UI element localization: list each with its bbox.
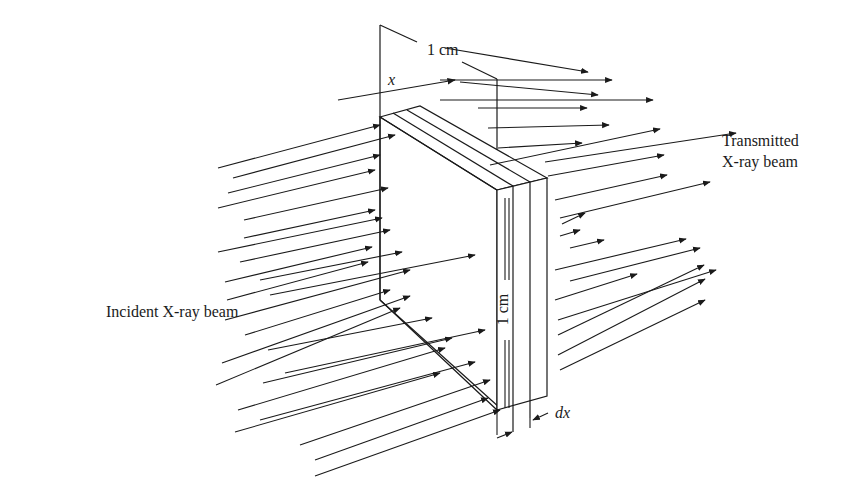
beam-arrow bbox=[285, 330, 485, 373]
beam-arrow bbox=[445, 48, 588, 72]
thickness-dimension bbox=[497, 410, 548, 438]
beam-arrow bbox=[560, 300, 705, 370]
beam-arrow bbox=[300, 380, 490, 445]
beam-arrow bbox=[488, 125, 609, 128]
beam-arrow bbox=[558, 279, 705, 355]
beam-arrow bbox=[570, 240, 604, 248]
width-dimension-label: 1 cm bbox=[427, 40, 459, 59]
height-dimension-label: 1 cm bbox=[493, 294, 512, 326]
beam-arrow bbox=[315, 410, 500, 476]
x-variable-label: x bbox=[388, 70, 395, 89]
transmitted-beam-arrows bbox=[440, 48, 736, 370]
dx-variable-label: dx bbox=[555, 403, 570, 422]
beam-arrow bbox=[240, 230, 390, 262]
beam-arrow bbox=[498, 143, 582, 148]
beam-arrow bbox=[225, 247, 372, 282]
beam-arrow bbox=[270, 255, 475, 295]
beam-arrow bbox=[460, 82, 598, 95]
beam-arrow bbox=[548, 155, 664, 176]
beam-arrow bbox=[268, 318, 432, 350]
beam-arrow bbox=[216, 308, 400, 385]
reference-frame bbox=[338, 25, 500, 408]
beam-arrow bbox=[560, 230, 580, 236]
beam-arrow bbox=[227, 262, 368, 300]
transmitted-beam-label-line1: Transmitted bbox=[722, 131, 799, 150]
beam-arrow bbox=[315, 398, 488, 460]
beam-arrow bbox=[245, 290, 390, 335]
incident-beam-label: Incident X-ray beam bbox=[106, 302, 238, 321]
beam-arrow bbox=[555, 239, 686, 270]
beam-arrow bbox=[560, 182, 710, 218]
beam-arrow bbox=[218, 218, 382, 252]
xray-slab-diagram bbox=[0, 0, 853, 501]
beam-arrow bbox=[244, 188, 388, 220]
incident-beam-arrows bbox=[216, 125, 500, 476]
beam-arrow bbox=[222, 296, 410, 363]
transmitted-beam-label-line2: X-ray beam bbox=[722, 152, 798, 171]
beam-arrow bbox=[555, 274, 637, 300]
